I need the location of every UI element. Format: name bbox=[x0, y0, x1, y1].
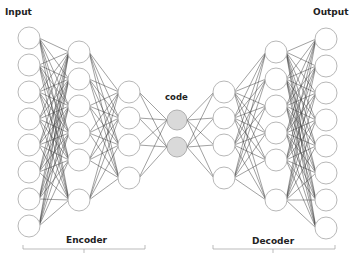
decoder-bracket bbox=[213, 245, 335, 253]
decoder-hidden-2-node bbox=[265, 149, 287, 171]
edge-line bbox=[89, 106, 119, 178]
edge-line bbox=[286, 133, 316, 146]
input-node bbox=[18, 161, 40, 183]
encoder-hidden-1-node bbox=[68, 149, 90, 171]
edge-line bbox=[39, 52, 69, 65]
encoder-hidden-1-node bbox=[68, 41, 90, 63]
edge-line bbox=[286, 39, 316, 52]
edge-line bbox=[234, 178, 266, 200]
encoder-hidden-2-node bbox=[118, 81, 140, 103]
encoder-hidden-1-node bbox=[68, 68, 90, 90]
edge-line bbox=[39, 38, 69, 52]
encoder-label: Encoder bbox=[66, 235, 107, 245]
decoder-hidden-1-node bbox=[213, 81, 235, 103]
decoder-hidden-2-node bbox=[265, 189, 287, 211]
edge-line bbox=[187, 118, 214, 147]
edge-line bbox=[187, 147, 214, 178]
decoder-hidden-2-node bbox=[265, 122, 287, 144]
decoder-hidden-2-node bbox=[265, 95, 287, 117]
decoder-hidden-2-node bbox=[265, 68, 287, 90]
encoder-hidden-1-node bbox=[68, 122, 90, 144]
autoencoder-diagram bbox=[0, 0, 354, 269]
output-node bbox=[315, 189, 337, 211]
decoder-hidden-1-node bbox=[213, 107, 235, 129]
edge-line bbox=[89, 178, 119, 200]
edge-line bbox=[286, 93, 316, 160]
decoder-hidden-2-node bbox=[265, 41, 287, 63]
input-node bbox=[18, 54, 40, 76]
input-layer-label: Input bbox=[5, 7, 32, 17]
code-node bbox=[167, 137, 187, 157]
edge-line bbox=[139, 120, 167, 178]
code-node bbox=[167, 110, 187, 130]
edge-line bbox=[89, 79, 119, 92]
output-layer-label: Output bbox=[313, 7, 349, 17]
encoder-hidden-2-node bbox=[118, 107, 140, 129]
edge-line bbox=[187, 120, 214, 178]
edge-line bbox=[139, 120, 167, 145]
edge-line bbox=[187, 145, 214, 147]
edge-line bbox=[286, 39, 316, 160]
input-node bbox=[18, 188, 40, 210]
code-layer-label: code bbox=[165, 92, 188, 102]
output-node bbox=[315, 217, 337, 239]
decoder-label: Decoder bbox=[252, 236, 294, 246]
output-node bbox=[315, 55, 337, 77]
output-node bbox=[315, 162, 337, 184]
edge-line bbox=[89, 92, 119, 200]
edge-line bbox=[89, 133, 119, 178]
decoder-hidden-1-node bbox=[213, 167, 235, 189]
input-node bbox=[18, 108, 40, 130]
encoder-bracket bbox=[23, 245, 145, 253]
output-node bbox=[315, 28, 337, 50]
edge-line bbox=[234, 133, 266, 178]
input-node bbox=[18, 134, 40, 156]
edge-line bbox=[187, 92, 214, 120]
encoder-hidden-1-node bbox=[68, 95, 90, 117]
edge-line bbox=[286, 160, 316, 173]
input-node bbox=[18, 215, 40, 237]
edge-line bbox=[89, 92, 119, 160]
encoder-hidden-1-node bbox=[68, 189, 90, 211]
encoder-hidden-2-node bbox=[118, 167, 140, 189]
section-brackets bbox=[23, 245, 335, 253]
input-node bbox=[18, 81, 40, 103]
edge-line bbox=[89, 145, 119, 160]
edge-line bbox=[286, 39, 316, 106]
output-node bbox=[315, 135, 337, 157]
edge-line bbox=[139, 92, 167, 120]
output-node bbox=[315, 109, 337, 131]
edge-line bbox=[139, 147, 167, 178]
edge-line bbox=[139, 145, 167, 147]
decoder-hidden-1-node bbox=[213, 134, 235, 156]
edge-line bbox=[234, 145, 266, 160]
edge-line bbox=[234, 92, 266, 160]
encoder-hidden-2-node bbox=[118, 134, 140, 156]
edge-line bbox=[234, 106, 266, 178]
output-node bbox=[315, 82, 337, 104]
input-node bbox=[18, 27, 40, 49]
